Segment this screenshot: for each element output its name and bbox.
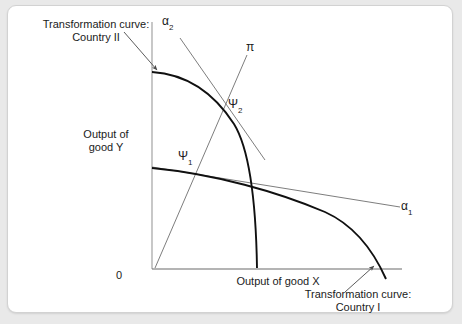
alpha2-label: α2 xyxy=(162,15,173,32)
callout-country-2-line2: Country II xyxy=(32,31,160,44)
alpha1-label-base: α xyxy=(401,199,408,213)
alpha1-label: α1 xyxy=(401,200,412,217)
origin-label: 0 xyxy=(116,269,122,282)
psi2-label-sub: 2 xyxy=(238,106,242,115)
alpha1-label-sub: 1 xyxy=(408,208,412,217)
alpha2-price-line xyxy=(180,38,265,160)
psi1-label-base: Ψ xyxy=(178,149,188,163)
y-axis-label-line1: Output of xyxy=(68,128,144,141)
x-axis-label: Output of good X xyxy=(198,275,358,288)
alpha2-label-sub: 2 xyxy=(169,23,173,32)
psi2-label-base: Ψ xyxy=(228,97,238,111)
y-axis-label-line2: good Y xyxy=(68,141,144,154)
figure-root: Transformation curve: Country II Transfo… xyxy=(0,0,462,324)
alpha2-label-base: α xyxy=(162,14,169,28)
callout-country-1-line1: Transformation curve: xyxy=(283,288,433,301)
pi-label: π xyxy=(246,41,254,54)
psi1-label: Ψ1 xyxy=(178,150,192,167)
transformation-curve-country-1 xyxy=(152,168,386,279)
callout-country-1-line2: Country I xyxy=(283,301,433,314)
psi1-label-sub: 1 xyxy=(188,158,192,167)
pi-price-line xyxy=(155,55,247,268)
psi2-label: Ψ2 xyxy=(228,98,242,115)
callout-country-2-line1: Transformation curve: xyxy=(32,18,160,31)
